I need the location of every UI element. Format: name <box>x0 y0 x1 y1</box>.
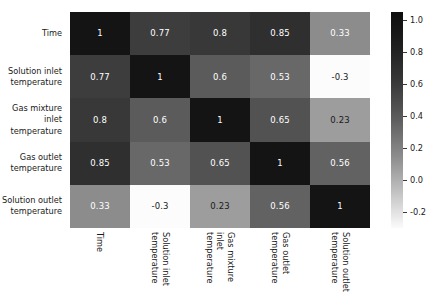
y-axis-label-text: Gas outlettemperature <box>11 152 62 174</box>
x-axis-label-slot: Gas mixtureinlettemperature <box>190 230 250 294</box>
colorbar-tick <box>403 148 407 149</box>
x-axis-label: Solution inlettemperature <box>149 232 170 286</box>
x-axis-label-slot: Time <box>70 230 130 294</box>
heatmap-cell-value: 1 <box>217 116 223 125</box>
colorbar-tick <box>403 20 407 21</box>
colorbar-tick-label: 1.0 <box>410 16 423 24</box>
x-axis-label: Gas mixtureinlettemperature <box>204 232 236 283</box>
heatmap-cell: 0.6 <box>190 55 250 98</box>
heatmap-cell-value: 0.85 <box>270 29 289 38</box>
heatmap-cell-value: 0.77 <box>150 29 169 38</box>
heatmap-cell-value: 0.56 <box>270 202 289 211</box>
heatmap-cell-value: 0.65 <box>210 159 229 168</box>
heatmap-cell-value: 0.65 <box>270 116 289 125</box>
heatmap-cell: 0.8 <box>70 98 130 141</box>
y-axis-tick-labels: TimeSolution inlettemperatureGas mixture… <box>0 12 66 228</box>
x-axis-label: Time <box>95 232 106 252</box>
x-axis-label-slot: Solution inlettemperature <box>130 230 190 294</box>
heatmap-cell: 0.85 <box>70 142 130 185</box>
x-axis-label: Solution outlettemperature <box>329 232 350 292</box>
heatmap-cell: 0.65 <box>250 98 310 141</box>
heatmap-cell-value: -0.3 <box>152 202 169 211</box>
heatmap-cell: 0.6 <box>130 98 190 141</box>
heatmap-cell: 0.53 <box>130 142 190 185</box>
heatmap-cell: -0.3 <box>130 185 190 228</box>
heatmap-cell-value: 0.53 <box>150 159 169 168</box>
colorbar-tick <box>403 180 407 181</box>
colorbar-tick-label: 0.4 <box>410 112 423 120</box>
colorbar-tick-label: 0.8 <box>410 48 423 56</box>
heatmap-cell: 0.23 <box>190 185 250 228</box>
heatmap-cell-value: 1 <box>337 202 343 211</box>
y-axis-label-text: Time <box>42 28 62 39</box>
y-axis-label: Solution outlettemperature <box>0 185 66 228</box>
x-axis-label-slot: Gas outlettemperature <box>250 230 310 294</box>
correlation-heatmap-figure: TimeSolution inlettemperatureGas mixture… <box>0 0 437 296</box>
y-axis-label-text: Solution inlettemperature <box>8 66 62 88</box>
heatmap-cell: 1 <box>310 185 370 228</box>
heatmap-cell: 0.53 <box>250 55 310 98</box>
y-axis-label: Time <box>0 12 66 55</box>
colorbar-tick <box>403 212 407 213</box>
colorbar-tick <box>403 84 407 85</box>
heatmap-cell-value: 0.23 <box>210 202 229 211</box>
heatmap-cell-value: 1 <box>277 159 283 168</box>
heatmap-grid: 10.770.80.850.330.7710.60.53-0.30.80.610… <box>70 12 370 228</box>
heatmap-cell: 0.77 <box>70 55 130 98</box>
y-axis-label: Solution inlettemperature <box>0 55 66 98</box>
heatmap-cell: 0.23 <box>310 98 370 141</box>
heatmap-cell-value: 0.23 <box>330 116 349 125</box>
heatmap-cell: 0.56 <box>310 142 370 185</box>
heatmap-cell: 1 <box>130 55 190 98</box>
y-axis-label-text: Gas mixture inlettemperature <box>0 103 62 136</box>
x-axis-label-slot: Solution outlettemperature <box>310 230 370 294</box>
heatmap-cell-value: 0.33 <box>90 202 109 211</box>
y-axis-label: Gas mixture inlettemperature <box>0 98 66 141</box>
heatmap-cell: 0.33 <box>310 12 370 55</box>
colorbar-tick-label: 0.6 <box>410 80 423 88</box>
heatmap-cell-value: 0.53 <box>270 73 289 82</box>
heatmap-cell: 1 <box>70 12 130 55</box>
x-axis-tick-labels: TimeSolution inlettemperatureGas mixture… <box>70 230 370 294</box>
heatmap-cell-value: 1 <box>97 29 103 38</box>
heatmap-cell: 0.33 <box>70 185 130 228</box>
colorbar: 1.00.80.60.40.20.0-0.2 <box>391 12 403 228</box>
heatmap-cell-value: 1 <box>157 73 163 82</box>
heatmap-cell: 0.8 <box>190 12 250 55</box>
heatmap-cell: 1 <box>190 98 250 141</box>
heatmap-cell: 0.65 <box>190 142 250 185</box>
heatmap-cell-value: 0.77 <box>90 73 109 82</box>
heatmap-cell-value: -0.3 <box>332 73 349 82</box>
heatmap-cell-value: 0.85 <box>90 159 109 168</box>
colorbar-tick-label: 0.0 <box>410 176 423 184</box>
heatmap-cell: 0.56 <box>250 185 310 228</box>
heatmap-cell-value: 0.8 <box>93 116 107 125</box>
y-axis-label: Gas outlettemperature <box>0 142 66 185</box>
colorbar-tick-label: -0.2 <box>410 208 426 216</box>
colorbar-gradient <box>391 12 403 228</box>
heatmap-cell: 0.77 <box>130 12 190 55</box>
heatmap-cell-value: 0.6 <box>153 116 167 125</box>
heatmap-cell-value: 0.56 <box>330 159 349 168</box>
x-axis-label: Gas outlettemperature <box>269 232 290 283</box>
heatmap-cell-value: 0.6 <box>213 73 227 82</box>
y-axis-label-text: Solution outlettemperature <box>2 195 62 217</box>
heatmap-cell: 1 <box>250 142 310 185</box>
heatmap-cell-value: 0.33 <box>330 29 349 38</box>
heatmap-cell-value: 0.8 <box>213 29 227 38</box>
colorbar-tick-label: 0.2 <box>410 144 423 152</box>
colorbar-tick <box>403 116 407 117</box>
colorbar-tick <box>403 52 407 53</box>
heatmap-cell: -0.3 <box>310 55 370 98</box>
heatmap-cell: 0.85 <box>250 12 310 55</box>
